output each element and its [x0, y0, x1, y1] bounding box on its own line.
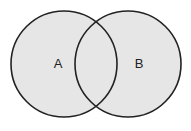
venn-diagram: A B — [0, 0, 191, 131]
set-b-label: B — [135, 56, 144, 71]
set-a-label: A — [54, 56, 63, 71]
